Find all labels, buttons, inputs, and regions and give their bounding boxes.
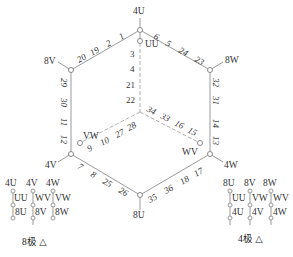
coil-number: 13 [211, 136, 221, 146]
coil-number: 8 [89, 169, 98, 180]
terminal-vw-label: VW [83, 131, 99, 141]
legend-label: WV [35, 193, 51, 203]
legend-label: UU [232, 193, 246, 203]
legend-4pole: 8U 8V 8W UU VW WV 4U 4V 4W 4极 △ [223, 178, 289, 244]
terminal-uu-label: UU [145, 39, 159, 49]
coil-number: 19 [88, 44, 101, 57]
coil-number: 21 [126, 80, 135, 90]
legend-label: 8U [15, 207, 27, 217]
legend-label: 8W [263, 178, 277, 188]
legend-label: 4U [232, 207, 244, 217]
terminal-wv-label: WV [182, 147, 198, 157]
coil-number: 27 [113, 126, 126, 139]
coil-number: 23 [193, 54, 206, 67]
vertex-upper-left-label: 8V [44, 56, 56, 66]
vertex-bottom-label: 8U [133, 210, 145, 220]
coil-number: 36 [161, 182, 175, 196]
legend-label: UU [14, 193, 28, 203]
coil-number: 31 [211, 95, 221, 105]
coil-number: 14 [211, 119, 221, 129]
legend-label: 4V [26, 178, 38, 188]
coil-number: 29 [59, 78, 69, 88]
coil-number: 16 [173, 118, 186, 131]
coil-number: 35 [145, 191, 159, 205]
coil-number: 5 [164, 38, 173, 49]
coil-number: 2 [104, 38, 113, 49]
coil-number: 18 [178, 173, 191, 186]
coil-number: 24 [177, 45, 190, 58]
coil-number: 7 [76, 161, 85, 172]
vertex-top-label: 4U [133, 6, 145, 16]
legend-8pole: 4U 4V 4W UU WV VW 8U 8V 8W 8极 △ [5, 178, 71, 247]
legend-4pole-caption: 4极 △ [238, 233, 263, 244]
legend-label: 8W [55, 207, 69, 217]
vertex-lower-right-label: 4W [224, 160, 238, 170]
vertex-lower-left-label: 4V [45, 160, 57, 170]
coil-number: 32 [211, 77, 221, 88]
coil-number: 17 [192, 165, 205, 178]
coil-number: 20 [75, 51, 88, 64]
legend-label: 8V [35, 207, 47, 217]
legend-label: 4W [273, 207, 287, 217]
coil-number: 15 [186, 125, 199, 138]
coil-number: 11 [59, 118, 69, 126]
legend-label: VW [252, 193, 268, 203]
coil-number: 22 [126, 95, 135, 105]
legend-label: 4U [5, 178, 17, 188]
coil-number: 3 [130, 49, 135, 59]
legend-label: 8U [223, 178, 235, 188]
legend-label: WV [273, 193, 289, 203]
coil-number: 12 [59, 135, 69, 145]
coil-number: 10 [98, 134, 111, 147]
coil-number: 28 [125, 119, 138, 132]
winding-diagram: 4U 8V 8W 4V 4W 8U UU VW WV 20 19 2 1 6 5… [0, 0, 293, 257]
coil-number: 33 [158, 110, 172, 124]
legend-label: VW [55, 193, 71, 203]
coil-number: 9 [85, 143, 94, 154]
coil-number: 4 [130, 64, 135, 74]
legend-label: 8V [244, 178, 256, 188]
coil-number: 26 [117, 185, 130, 198]
legend-8pole-caption: 8极 △ [22, 236, 47, 247]
legend-label: 4V [252, 207, 264, 217]
vertex-upper-right-label: 8W [225, 55, 239, 65]
legend-label: 4W [46, 178, 60, 188]
coil-number: 30 [59, 97, 69, 108]
coil-number: 1 [117, 31, 126, 42]
